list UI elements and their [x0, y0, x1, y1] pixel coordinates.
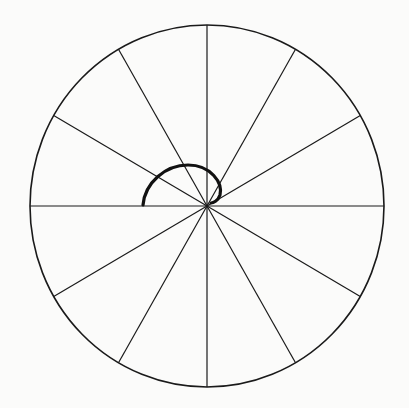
diagram-canvas	[0, 0, 409, 408]
spoke-lines	[30, 25, 384, 387]
sector-circle-diagram	[0, 0, 409, 408]
bold-arc	[143, 165, 220, 205]
